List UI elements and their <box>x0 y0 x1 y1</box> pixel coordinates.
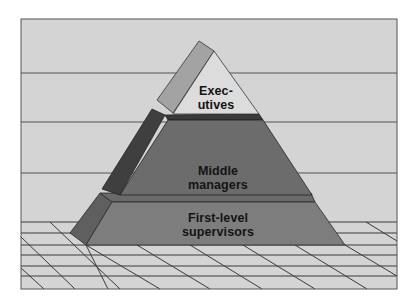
label-middle-managers: Middle managers <box>176 164 260 192</box>
executives-line2: utives <box>190 98 242 112</box>
middle-managers-line1: Middle <box>176 164 260 178</box>
first-level-supervisors-line2: supervisors <box>168 225 268 239</box>
middle-managers-line2: managers <box>176 178 260 192</box>
first-level-supervisors-line1: First-level <box>168 211 268 225</box>
label-executives: Exec- utives <box>190 84 242 112</box>
pyramid-graphic <box>0 0 414 301</box>
label-first-level-supervisors: First-level supervisors <box>168 211 268 239</box>
pyramid-diagram: Exec- utives Middle managers First-level… <box>0 0 414 301</box>
executives-line1: Exec- <box>190 84 242 98</box>
middle-tier-top-strip <box>165 114 263 120</box>
